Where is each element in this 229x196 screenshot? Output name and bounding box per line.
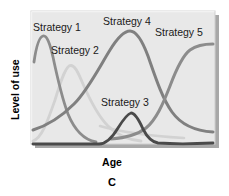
x-axis-label: Age [102,156,122,168]
y-axis-label: Level of use [9,59,21,120]
panel-letter: C [108,176,116,188]
chart-svg: Strategy 1 Strategy 2 Strategy 4 Strateg… [0,0,229,196]
label-strategy-2: Strategy 2 [51,44,99,56]
label-strategy-4: Strategy 4 [103,15,151,27]
label-strategy-5: Strategy 5 [155,26,203,38]
label-strategy-1: Strategy 1 [33,21,81,33]
figure-panel-c: Strategy 1 Strategy 2 Strategy 4 Strateg… [0,0,229,196]
label-strategy-3: Strategy 3 [101,96,149,108]
